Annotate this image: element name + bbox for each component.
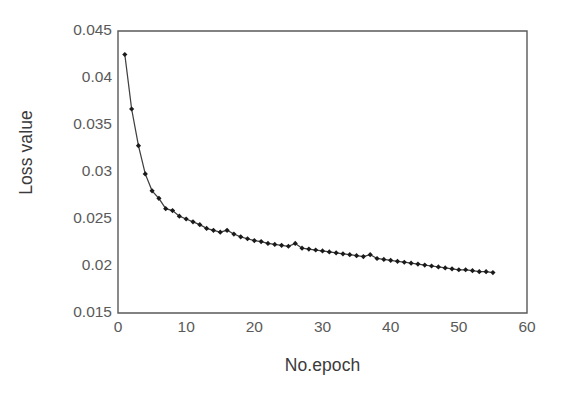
x-tick-label: 60: [505, 318, 549, 336]
data-point-marker: [122, 52, 127, 57]
data-point-marker: [381, 257, 386, 262]
data-point-marker: [129, 106, 134, 111]
data-point-marker: [313, 247, 318, 252]
data-point-marker: [388, 258, 393, 263]
data-point-marker: [470, 268, 475, 273]
data-point-marker: [347, 252, 352, 257]
data-point-marker: [456, 267, 461, 272]
data-point-marker: [429, 263, 434, 268]
data-point-marker: [238, 234, 243, 239]
data-point-marker: [415, 262, 420, 267]
data-point-marker: [436, 264, 441, 269]
data-point-marker: [136, 143, 141, 148]
data-point-marker: [449, 266, 454, 271]
data-point-marker: [184, 216, 189, 221]
data-point-marker: [334, 250, 339, 255]
data-point-marker: [143, 171, 148, 176]
data-point-marker: [340, 251, 345, 256]
data-point-markers: [122, 52, 495, 275]
x-tick-label: 0: [96, 318, 140, 336]
data-point-marker: [272, 242, 277, 247]
data-point-marker: [490, 270, 495, 275]
data-point-marker: [395, 259, 400, 264]
data-point-marker: [231, 231, 236, 236]
data-point-marker: [190, 219, 195, 224]
data-point-marker: [245, 236, 250, 241]
data-point-marker: [354, 253, 359, 258]
plot-area: [0, 0, 565, 402]
x-tick-label: 50: [437, 318, 481, 336]
data-point-marker: [443, 265, 448, 270]
data-point-marker: [409, 261, 414, 266]
data-point-marker: [286, 244, 291, 249]
data-point-marker: [218, 230, 223, 235]
loss-curve-figure: Loss value 0.0150.020.0250.030.0350.040.…: [0, 0, 565, 402]
data-point-marker: [361, 254, 366, 259]
data-point-marker: [259, 239, 264, 244]
data-point-marker: [368, 252, 373, 257]
x-tick-label: 10: [164, 318, 208, 336]
data-point-marker: [327, 249, 332, 254]
data-point-marker: [320, 248, 325, 253]
data-point-marker: [252, 238, 257, 243]
data-point-marker: [463, 267, 468, 272]
data-point-marker: [265, 241, 270, 246]
data-point-marker: [197, 222, 202, 227]
data-point-marker: [211, 228, 216, 233]
x-tick-label: 30: [301, 318, 345, 336]
data-point-marker: [402, 260, 407, 265]
data-point-marker: [204, 226, 209, 231]
data-point-marker: [224, 228, 229, 233]
data-point-marker: [484, 269, 489, 274]
data-point-marker: [374, 256, 379, 261]
data-point-marker: [306, 246, 311, 251]
data-point-marker: [279, 243, 284, 248]
data-series-line: [125, 55, 493, 273]
data-point-marker: [477, 269, 482, 274]
x-tick-label: 40: [369, 318, 413, 336]
x-tick-label: 20: [232, 318, 276, 336]
data-point-marker: [422, 262, 427, 267]
